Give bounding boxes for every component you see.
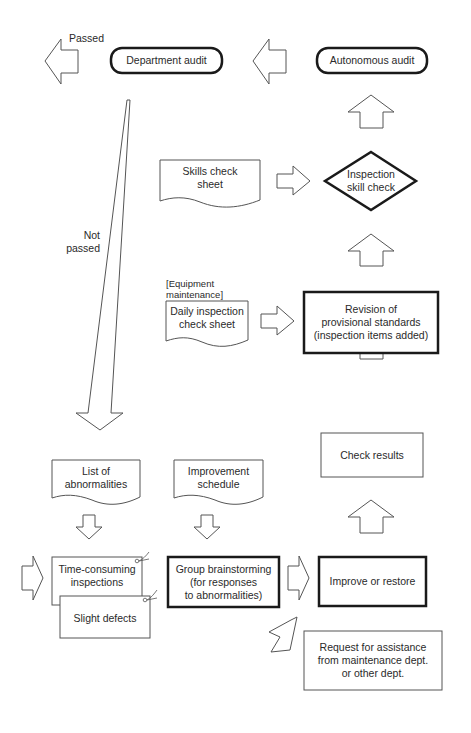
arrow-skillcheck-to-autonomous (348, 95, 394, 128)
skill-check-line1: Inspection (347, 168, 395, 181)
skill-check-line2: skill check (347, 181, 395, 194)
department-audit-label: Department audit (111, 48, 222, 73)
daily-sheet-line2: check sheet (179, 318, 235, 331)
daily-sheet-line1: Daily inspection (170, 305, 244, 318)
not-passed-arrow (76, 100, 130, 430)
equipment-note-line2: maintenance] (166, 289, 223, 300)
inspection-skill-check-label: Inspection skill check (330, 166, 412, 196)
daily-inspection-sheet-label: Daily inspection check sheet (166, 303, 248, 333)
brainstorming-line1: Group brainstorming (176, 563, 272, 576)
arrow-list-to-timeconsuming (76, 515, 102, 539)
request-line3: or other dept. (342, 667, 404, 680)
revision-of-standards-label: Revision of provisional standards (inspe… (304, 292, 438, 353)
time-consuming-line2: inspections (71, 576, 124, 589)
not-passed-line1: Not (64, 229, 100, 242)
skills-check-line2: sheet (197, 178, 223, 191)
check-results-label: Check results (321, 433, 423, 477)
arrow-revision-to-skillcheck (348, 234, 394, 266)
revision-line2: provisional standards (321, 316, 420, 329)
skills-check-line1: Skills check (183, 165, 238, 178)
time-consuming-line1: Time-consuming (58, 563, 135, 576)
equipment-maintenance-note: [Equipment maintenance] (166, 278, 223, 300)
slight-defects-label: Slight defects (60, 608, 150, 628)
passed-label: Passed (69, 32, 104, 45)
list-of-abnormalities-label: List of abnormalities (52, 463, 140, 493)
request-line2: from maintenance dept. (318, 654, 428, 667)
time-consuming-inspections-label: Time-consuming inspections (52, 562, 142, 590)
autonomous-audit-label: Autonomous audit (317, 48, 427, 73)
list-line2: abnormalities (65, 478, 127, 491)
not-passed-label: Not passed (64, 229, 100, 255)
passed-exit-arrow (45, 39, 78, 84)
arrow-brainstorming-to-improve (288, 556, 309, 600)
arrow-skillsheet-to-skillcheck (277, 166, 310, 195)
arrow-into-timeconsuming (22, 556, 43, 600)
arrow-brainstorming-to-request (269, 617, 297, 652)
improve-or-restore-label: Improve or restore (319, 557, 426, 606)
brainstorming-line3: to abnormalities) (185, 589, 263, 602)
group-brainstorming-label: Group brainstorming (for responses to ab… (168, 557, 279, 607)
brainstorming-line2: (for responses (190, 576, 257, 589)
arrow-improve-to-check (348, 500, 394, 533)
not-passed-line2: passed (64, 242, 100, 255)
list-line1: List of (82, 465, 110, 478)
request-for-assistance-label: Request for assistance from maintenance … (304, 631, 442, 690)
schedule-line2: schedule (197, 478, 239, 491)
schedule-line1: Improvement (188, 465, 249, 478)
arrow-autonomous-to-department (253, 39, 286, 84)
arrow-schedule-to-brainstorming (194, 515, 220, 539)
request-line1: Request for assistance (320, 641, 427, 654)
revision-line3: (inspection items added) (314, 329, 428, 342)
revision-line1: Revision of (345, 303, 397, 316)
skills-check-sheet-label: Skills check sheet (160, 163, 260, 193)
arrow-dailysheet-to-revision (261, 306, 294, 335)
improvement-schedule-label: Improvement schedule (174, 463, 263, 493)
equipment-note-line1: [Equipment (166, 278, 223, 289)
